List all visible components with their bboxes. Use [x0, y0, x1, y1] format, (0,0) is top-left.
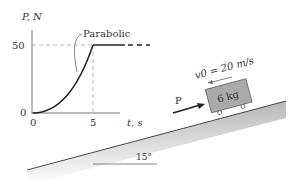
- graph: P, N Parabolic 50 0 0 5 t, s: [12, 11, 150, 128]
- x-tick-5: 5: [90, 117, 96, 128]
- block: 6 kg: [205, 79, 253, 117]
- incline-surface: [27, 101, 286, 170]
- curve-annotation: Parabolic: [83, 28, 131, 39]
- force-label: P: [175, 95, 182, 106]
- x-axis-label: t, s: [127, 117, 143, 128]
- y-tick-0: 0: [20, 107, 26, 118]
- force-arrow: [173, 105, 200, 113]
- diagram-canvas: P, N Parabolic 50 0 0 5 t, s 15° 6 kg v0…: [0, 0, 291, 180]
- velocity-arrowhead: [208, 80, 213, 84]
- annotation-leader: [74, 34, 82, 72]
- angle-label: 15°: [136, 152, 152, 162]
- y-axis-label: P, N: [21, 11, 43, 22]
- velocity-label: v0 = 20 m/s: [194, 55, 255, 81]
- force-arrowhead: [197, 103, 205, 109]
- y-tick-50: 50: [12, 40, 25, 51]
- x-tick-0: 0: [30, 117, 36, 128]
- parabolic-curve: [33, 45, 93, 113]
